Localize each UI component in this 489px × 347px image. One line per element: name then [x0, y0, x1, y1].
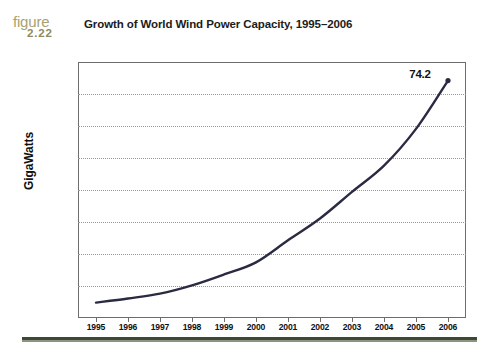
wind-capacity-line [96, 81, 448, 303]
figure-container: figure 2.22 Growth of World Wind Power C… [0, 0, 489, 347]
data-series-svg [0, 0, 489, 347]
bottom-rule-shadow [22, 340, 477, 342]
final-data-point [445, 78, 450, 83]
final-value-annotation: 74.2 [409, 68, 431, 80]
